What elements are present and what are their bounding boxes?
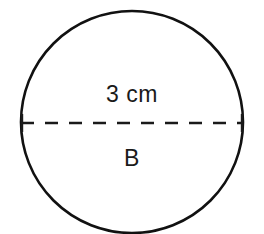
region-identifier-label: B — [0, 147, 264, 170]
diameter-measurement-label: 3 cm — [0, 83, 264, 106]
circle-diagram-svg — [0, 0, 264, 234]
figure-canvas: 3 cm B — [0, 0, 264, 234]
